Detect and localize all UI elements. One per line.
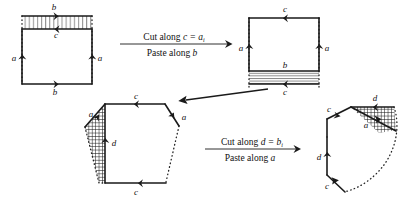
figure-3-label-d: d <box>112 138 117 148</box>
arrow-1-top-math: c = a <box>183 32 203 42</box>
figure-4-label-d-left: d <box>317 152 322 162</box>
figure-2-hatch-region <box>249 71 319 84</box>
arrow-1-top-label: Cut along c = ai <box>143 32 205 43</box>
arrow-1-top-subscript: i <box>203 37 205 43</box>
figure-4-label-c-bottom: c <box>325 181 329 191</box>
figure-4-label-a: a <box>364 120 369 130</box>
figure-1-label-a-right: a <box>98 53 103 63</box>
arrow-2-rule <box>186 89 268 100</box>
arrow-3: Cut along d = bi Paste along a <box>205 137 301 163</box>
arrow-3-top-prefix: Cut along <box>221 137 261 147</box>
figure-2: c a a b c <box>239 4 330 97</box>
figure-3-label-a-right: a <box>182 112 187 122</box>
figure-2-label-b: b <box>283 60 288 70</box>
arrow-3-top-label: Cut along d = bi <box>221 137 283 148</box>
arrow-3-top-math: d = b <box>261 137 282 147</box>
arrow-3-bottom-prefix: Paste along <box>225 153 271 163</box>
arrow-3-top-subscript: i <box>281 142 283 148</box>
figure-4-edge-c-bottom <box>327 175 345 192</box>
figure-4: d c a d c <box>317 93 397 192</box>
figure-4-label-d-top: d <box>373 93 378 103</box>
figure-2-label-a-right: a <box>325 43 330 53</box>
arrow-1-bottom-prefix: Paste along <box>147 48 193 58</box>
figure-3-label-c-top: c <box>134 91 138 101</box>
figure-1-label-b-top: b <box>52 2 57 12</box>
figure-1-label-a-left: a <box>12 53 17 63</box>
figure-1-hatch-region <box>22 16 92 29</box>
arrow-3-bottom-label: Paste along a <box>225 153 276 163</box>
figure-3-label-c-bottom: c <box>134 187 138 197</box>
arrow-1-bottom-math: b <box>193 48 198 58</box>
figure-2-label-a-left: a <box>239 43 244 53</box>
figure-2-label-c-top: c <box>283 4 287 14</box>
figure-3: c a a d c <box>85 91 187 197</box>
arrow-1-bottom-label: Paste along b <box>147 48 198 58</box>
arrow-2 <box>178 89 268 104</box>
arrow-3-bottom-math: a <box>271 153 276 163</box>
diagram-svg: b c a a b Cut along c = ai Paste along b <box>0 0 414 208</box>
figure-3-ghost-lower-right <box>166 126 179 182</box>
figure-canvas: b c a a b Cut along c = ai Paste along b <box>0 0 414 208</box>
arrow-1-top-prefix: Cut along <box>143 32 183 42</box>
figure-1: b c a a b <box>12 2 103 97</box>
figure-4-label-c-top: c <box>327 104 331 114</box>
figure-1-label-c: c <box>54 30 58 40</box>
figure-1-label-b-bottom: b <box>53 87 58 97</box>
arrow-1: Cut along c = ai Paste along b <box>120 32 233 58</box>
figure-3-label-a-left: a <box>89 109 94 119</box>
figure-2-label-c-bottom: c <box>283 87 287 97</box>
